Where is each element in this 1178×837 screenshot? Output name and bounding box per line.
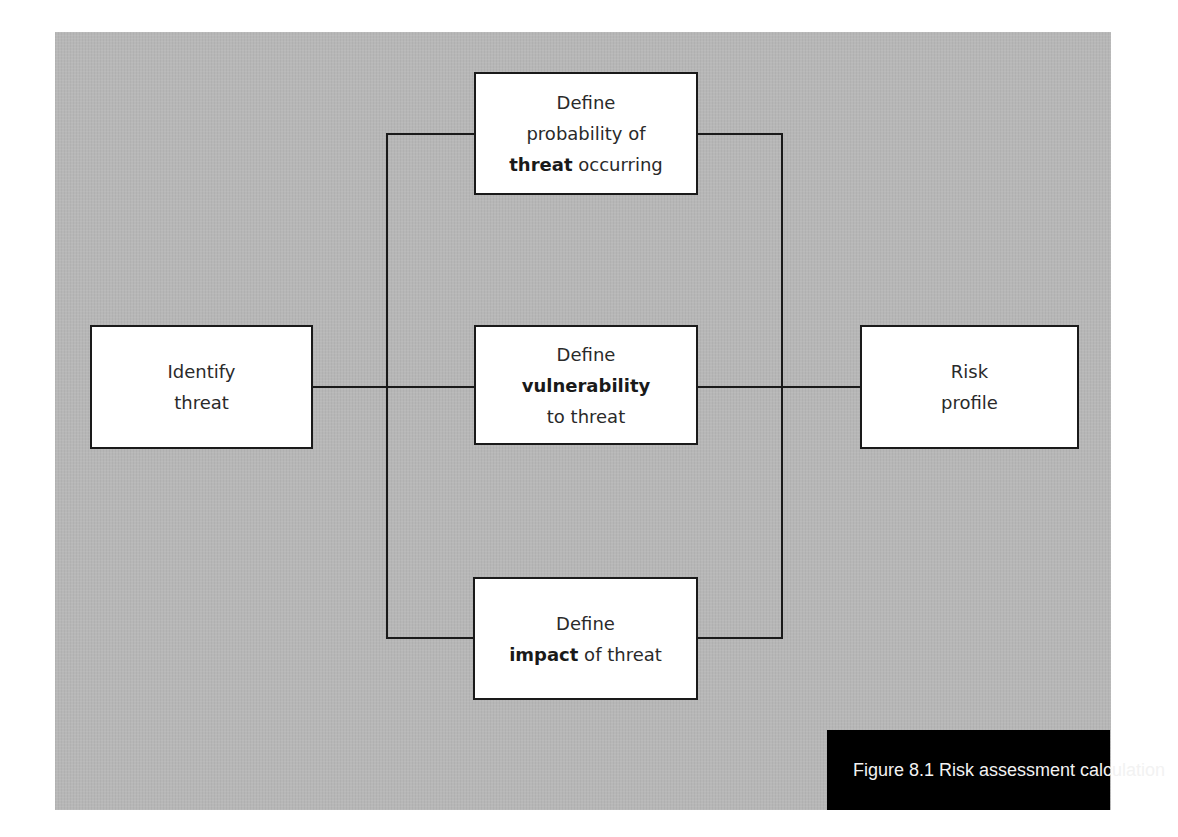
emphasis-term: impact xyxy=(509,644,578,665)
node-label-line: threat xyxy=(168,387,236,418)
connector-identify-to-left-bracket xyxy=(312,386,388,388)
connector-left-bracket-to-impact xyxy=(386,637,476,639)
node-define-impact: Define impact of threat xyxy=(473,577,698,700)
connector-right-bracket-to-risk xyxy=(781,386,862,388)
node-label-line: Define xyxy=(522,339,651,370)
connector-left-bracket-to-vulnerability xyxy=(386,386,476,388)
node-label-text: of threat xyxy=(578,644,661,665)
node-label-line: to threat xyxy=(522,401,651,432)
node-identify-threat: Identify threat xyxy=(90,325,313,449)
figure-caption-text: Figure 8.1 Risk assessment calculation xyxy=(853,760,1165,781)
node-label-line: Define xyxy=(509,608,662,639)
node-label-line: Identify xyxy=(168,356,236,387)
connector-impact-to-right-bracket xyxy=(695,637,783,639)
node-label-line: profile xyxy=(941,387,998,418)
node-label-text: occurring xyxy=(573,154,663,175)
node-label-line: Risk xyxy=(941,356,998,387)
node-label-line: vulnerability xyxy=(522,370,651,401)
node-label-line: Define xyxy=(509,87,663,118)
node-define-probability: Define probability of threat occurring xyxy=(474,72,698,195)
node-label-line: impact of threat xyxy=(509,639,662,670)
connector-left-bracket-to-probability xyxy=(386,133,476,135)
node-risk-profile: Risk profile xyxy=(860,325,1079,449)
connector-vulnerability-to-right-bracket xyxy=(695,386,783,388)
connector-probability-to-right-bracket xyxy=(695,133,783,135)
emphasis-term: vulnerability xyxy=(522,375,651,396)
emphasis-term: threat xyxy=(509,154,572,175)
figure-canvas: Identify threat Define probability of th… xyxy=(0,0,1178,837)
node-label-line: probability of xyxy=(509,118,663,149)
node-label-line: threat occurring xyxy=(509,149,663,180)
node-define-vulnerability: Define vulnerability to threat xyxy=(474,325,698,445)
figure-caption: Figure 8.1 Risk assessment calculation xyxy=(827,730,1110,810)
